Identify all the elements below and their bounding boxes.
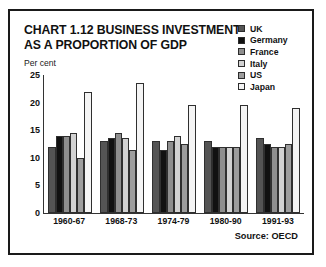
bar-italy-1991-93 [278,147,285,213]
bar-germany-1960-67 [56,136,63,213]
legend-item-label: Germany [250,35,288,45]
legend-swatch-icon [238,37,245,44]
chart-title-line-1: CHART 1.12 BUSINESS INVESTMENT [24,23,229,38]
x-axis-tick-label: 1960-67 [43,216,95,226]
x-axis-tick-label: 1980-90 [200,216,252,226]
bar-group-1980-90 [200,75,252,213]
bar-japan-1974-79 [188,105,195,213]
legend-item-label: Italy [250,59,267,69]
bar-germany-1980-90 [212,147,219,213]
y-axis-unit-label: Per cent [24,58,56,68]
legend-item-label: France [250,47,279,57]
bar-italy-1968-73 [122,138,129,213]
bar-germany-1974-79 [160,150,167,213]
bar-france-1991-93 [271,147,278,213]
bar-us-1980-90 [233,147,240,213]
bar-uk-1974-79 [152,141,159,213]
x-axis-tick-label: 1968-73 [95,216,147,226]
y-axis-tick-label: 15 [10,125,40,135]
bar-us-1960-67 [77,158,84,213]
bar-group-1974-79 [148,75,200,213]
bar-germany-1968-73 [108,138,115,213]
x-axis-tick-label: 1991-93 [252,216,304,226]
plot-wrapper: 0510152025 1960-671968-731974-791980-901… [10,75,312,221]
chart-card: CHART 1.12 BUSINESS INVESTMENT AS A PROP… [8,9,314,255]
bar-group-1991-93 [252,75,304,213]
bar-france-1968-73 [115,133,122,213]
legend-item-france: France [238,46,310,58]
page-title: CHART 1.12 BUSINESS INVESTMENT AS A PROP… [24,23,229,52]
y-axis-tick-label: 20 [10,98,40,108]
legend-swatch-icon [238,60,245,67]
chart-title-line-2: AS A PROPORTION OF GDP [24,38,229,53]
bar-germany-1991-93 [264,144,271,213]
bar-us-1991-93 [285,144,292,213]
plot-area [43,75,304,214]
legend-swatch-icon [238,48,245,55]
x-axis-tick-label: 1974-79 [147,216,199,226]
bar-italy-1980-90 [226,147,233,213]
legend-item-germany: Germany [238,35,310,47]
bar-us-1974-79 [181,144,188,213]
bar-france-1974-79 [167,141,174,213]
bar-japan-1980-90 [240,105,247,213]
bar-uk-1991-93 [256,138,263,213]
bar-uk-1960-67 [48,147,55,213]
legend-swatch-icon [238,25,245,32]
bar-groups [44,75,304,213]
y-axis-tick-label: 10 [10,153,40,163]
bar-uk-1968-73 [100,141,107,213]
bar-italy-1974-79 [174,136,181,213]
bar-japan-1960-67 [84,92,91,213]
x-axis-tick-labels: 1960-671968-731974-791980-901991-93 [43,216,304,226]
bar-group-1968-73 [96,75,148,213]
legend-item-italy: Italy [238,58,310,70]
bar-france-1980-90 [219,147,226,213]
bar-japan-1991-93 [292,108,299,213]
legend-item-uk: UK [238,23,310,35]
bar-group-1960-67 [44,75,96,213]
y-axis-tick-labels: 0510152025 [10,75,40,213]
y-axis-tick-label: 25 [10,70,40,80]
legend-item-label: UK [250,24,263,34]
y-axis-tick-label: 0 [10,208,40,218]
y-axis-tick-label: 5 [10,180,40,190]
bar-japan-1968-73 [136,83,143,213]
bar-italy-1960-67 [70,133,77,213]
bar-france-1960-67 [63,136,70,213]
bar-uk-1980-90 [204,141,211,213]
source-note: Source: OECD [235,231,298,241]
bar-us-1968-73 [129,150,136,213]
